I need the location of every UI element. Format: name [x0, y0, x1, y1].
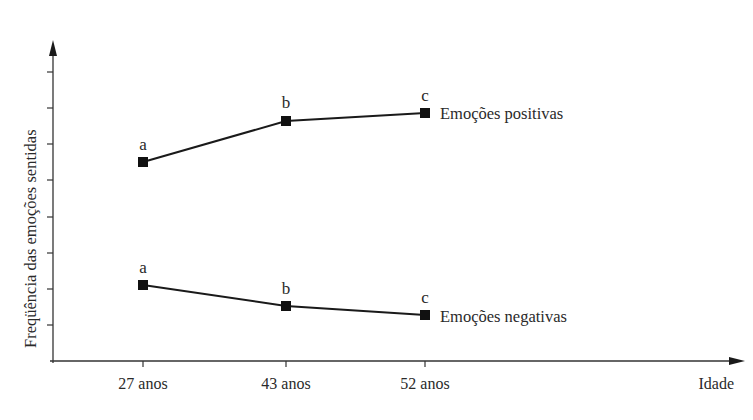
line-chart: Freqüência das emoções sentidas 27 anos …	[0, 0, 753, 420]
x-ticks	[143, 361, 425, 367]
x-axis-label: Idade	[698, 375, 734, 392]
y-ticks	[47, 72, 53, 325]
point-marker	[138, 280, 148, 290]
point-marker	[281, 116, 291, 126]
y-axis-label: Freqüência das emoções sentidas	[21, 129, 40, 348]
y-axis-arrow-icon	[49, 40, 57, 56]
point-label: c	[421, 86, 429, 105]
point-label: a	[139, 258, 147, 277]
point-label: a	[139, 135, 147, 154]
point-marker	[420, 310, 430, 320]
point-label: c	[421, 288, 429, 307]
x-tick-label-27: 27 anos	[118, 375, 167, 392]
point-label: b	[282, 93, 291, 112]
series-positive: a b c Emoções positivas	[138, 86, 563, 167]
point-marker	[138, 157, 148, 167]
point-marker	[281, 301, 291, 311]
point-label: b	[282, 279, 291, 298]
series-label-negative: Emoções negativas	[440, 307, 567, 326]
x-tick-label-52: 52 anos	[400, 375, 449, 392]
x-tick-label-43: 43 anos	[261, 375, 310, 392]
series-negative: a b c Emoções negativas	[138, 258, 567, 326]
x-axis-arrow-icon	[729, 357, 745, 365]
series-label-positive: Emoções positivas	[440, 104, 563, 123]
point-marker	[420, 108, 430, 118]
